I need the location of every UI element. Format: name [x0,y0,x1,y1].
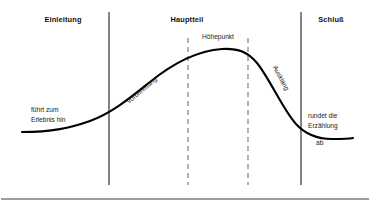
slope-label-vorbereitung: Vorbereitung [125,75,159,105]
section-title-hauptteil: Hauptteil [171,15,204,24]
annotation-left-line-2: Erlebnis hin [31,116,66,123]
slope-label-vorbereitung-group: Vorbereitung [125,75,159,105]
section-title-einleitung: Einleitung [44,15,82,24]
section-title-schluss: Schluß [318,15,344,24]
annotation-right-line-1: rundet die [308,112,338,119]
annotation-right-line-2: Erzählung [308,122,338,130]
diagram-canvas: Einleitung Hauptteil Schluß Höhepunkt Vo… [0,0,370,204]
annotation-right-line-3: ab [316,139,324,146]
peak-label-hoehepunkt: Höhepunkt [202,33,234,41]
annotation-left-line-1: führt zum [31,106,59,113]
narrative-arc-diagram: Einleitung Hauptteil Schluß Höhepunkt Vo… [0,0,370,204]
